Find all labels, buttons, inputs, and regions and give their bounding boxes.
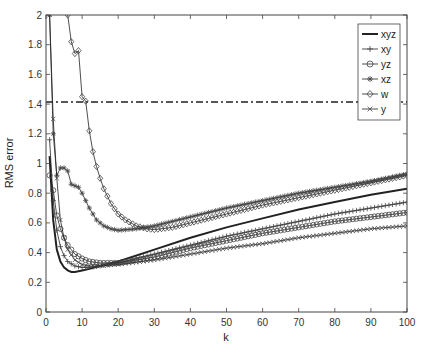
x-tick-label: 90 [365, 317, 377, 328]
x-tick-label: 20 [113, 317, 125, 328]
series-layer [46, 12, 410, 272]
x-axis-label: k [223, 331, 229, 343]
y-tick-label: 2 [36, 10, 42, 21]
legend-label: w [380, 89, 389, 100]
legend-label: y [381, 104, 386, 115]
y-tick-label: 0 [36, 307, 42, 318]
x-tick-label: 80 [329, 317, 341, 328]
x-tick-label: 50 [221, 317, 233, 328]
rms-error-chart: 010203040506070809010000.20.40.60.811.21… [0, 0, 430, 357]
y-tick-label: 1.4 [28, 99, 42, 110]
legend: xyzxyyzxzwy [358, 24, 400, 120]
legend-label: xz [381, 74, 391, 85]
x-tick-label: 100 [399, 317, 416, 328]
x-tick-label: 10 [77, 317, 89, 328]
x-tick-label: 70 [293, 317, 305, 328]
x-tick-label: 60 [257, 317, 269, 328]
y-tick-label: 0.4 [28, 247, 42, 258]
y-tick-label: 1.6 [28, 69, 42, 80]
legend-label: xyz [381, 29, 396, 40]
y-tick-label: 1.8 [28, 39, 42, 50]
y-tick-label: 0.2 [28, 277, 42, 288]
x-tick-label: 0 [43, 317, 49, 328]
y-tick-label: 1.2 [28, 128, 42, 139]
legend-label: xy [381, 44, 391, 55]
legend-label: yz [381, 59, 391, 70]
y-tick-label: 0.8 [28, 188, 42, 199]
x-tick-label: 30 [149, 317, 161, 328]
y-tick-label: 0.6 [28, 217, 42, 228]
y-axis-label: RMS error [3, 137, 15, 188]
series-y [48, 13, 410, 268]
series-xz [47, 12, 410, 233]
x-tick-label: 40 [185, 317, 197, 328]
y-tick-label: 1 [36, 158, 42, 169]
